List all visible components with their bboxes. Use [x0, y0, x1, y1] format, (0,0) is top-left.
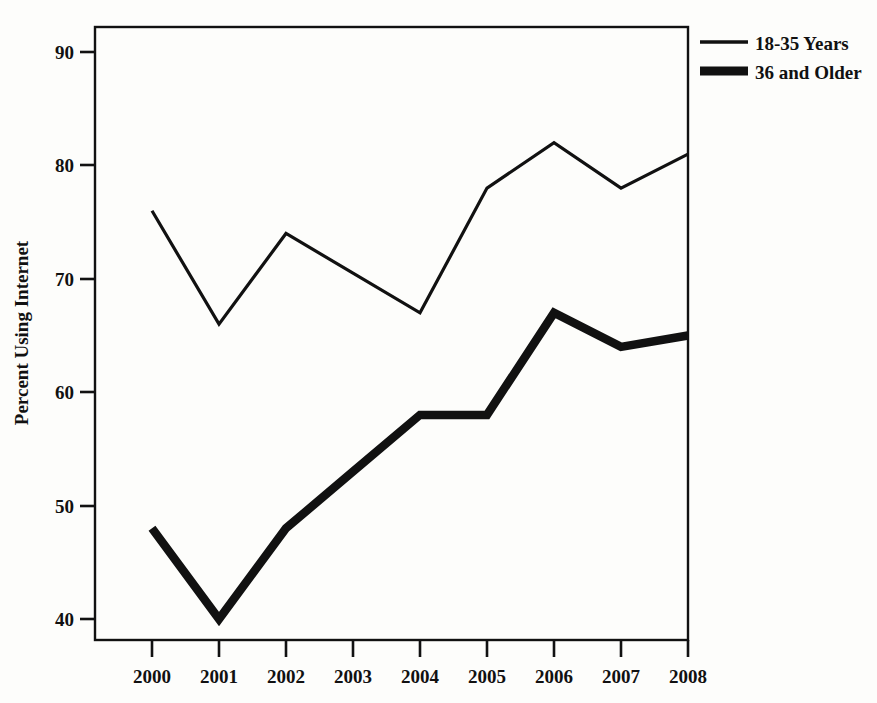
x-tick-label-2001: 2001	[200, 666, 238, 687]
y-tick-label-70: 70	[55, 269, 74, 290]
x-tick-label-2000: 2000	[133, 666, 171, 687]
x-axis-ticks	[152, 640, 688, 657]
y-axis-title: Percent Using Internet	[11, 240, 32, 425]
y-tick-label-80: 80	[55, 155, 74, 176]
line-chart-figure: 90 80 70 60 50 40 Percent Using Internet…	[0, 0, 877, 703]
x-tick-label-2002: 2002	[267, 666, 305, 687]
y-axis-ticks	[80, 52, 95, 619]
chart-legend: 18-35 Years 36 and Older	[700, 33, 862, 83]
y-tick-label-90: 90	[55, 42, 74, 63]
chart-page: 90 80 70 60 50 40 Percent Using Internet…	[0, 0, 877, 703]
legend-label-18-35-years: 18-35 Years	[755, 33, 849, 54]
series-line-18-35-years	[152, 143, 688, 324]
y-axis-tick-labels: 90 80 70 60 50 40	[55, 42, 74, 630]
y-tick-label-60: 60	[55, 382, 74, 403]
x-axis-tick-labels: 2000 2001 2002 2003 2004 2005 2006 2007 …	[133, 666, 707, 687]
series-line-36-and-older	[152, 313, 688, 619]
x-tick-label-2008: 2008	[669, 666, 707, 687]
x-tick-label-2004: 2004	[401, 666, 440, 687]
y-tick-label-40: 40	[55, 609, 74, 630]
x-tick-label-2003: 2003	[334, 666, 372, 687]
x-tick-label-2005: 2005	[468, 666, 506, 687]
x-tick-label-2006: 2006	[535, 666, 573, 687]
y-tick-label-50: 50	[55, 496, 74, 517]
legend-label-36-and-older: 36 and Older	[755, 62, 862, 83]
x-tick-label-2007: 2007	[602, 666, 641, 687]
